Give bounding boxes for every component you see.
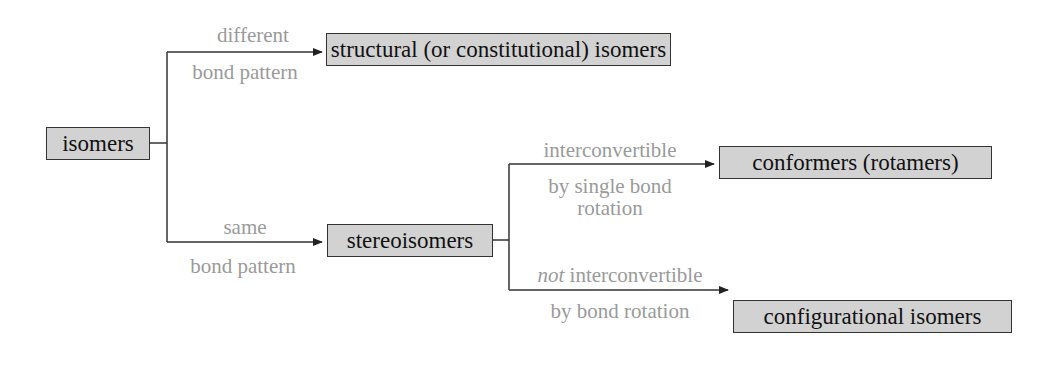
- node-configurational-isomers: configurational isomers: [733, 300, 1012, 333]
- node-label: conformers (rotamers): [752, 151, 958, 174]
- node-label: structural (or constitutional) isomers: [331, 38, 666, 61]
- node-isomers: isomers: [46, 127, 150, 160]
- edge-label-different: different: [198, 24, 308, 46]
- edge-label-same: same: [200, 216, 290, 238]
- node-stereoisomers: stereoisomers: [327, 224, 493, 257]
- node-label: stereoisomers: [347, 229, 473, 252]
- node-structural-isomers: structural (or constitutional) isomers: [326, 33, 671, 66]
- edge-label-bond-pattern-bottom: bond pattern: [168, 255, 318, 277]
- edge-label-interconvertible: interconvertible: [530, 139, 690, 161]
- edge-label-not-interconvertible: not interconvertible: [520, 264, 720, 286]
- edge-label-single-bond: by single bond rotation: [530, 175, 690, 219]
- node-label: isomers: [62, 132, 134, 155]
- node-label: configurational isomers: [764, 305, 982, 328]
- edge-label-bond-rotation: by bond rotation: [520, 300, 720, 322]
- node-conformers: conformers (rotamers): [719, 146, 992, 179]
- edge-label-bond-pattern-top: bond pattern: [170, 61, 320, 83]
